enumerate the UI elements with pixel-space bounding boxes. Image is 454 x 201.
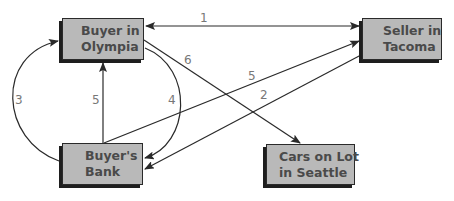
edge-3-label: 3 (15, 94, 23, 106)
edge-1-label: 1 (200, 12, 208, 24)
edge-4-label: 4 (168, 94, 176, 106)
node-cars-line2: in Seattle (279, 165, 354, 181)
edge-2-label: 2 (260, 89, 268, 101)
node-buyer-in-olympia: Buyer in Olympia (62, 18, 144, 60)
node-seller-line1: Seller in (383, 23, 441, 39)
node-cars-line1: Cars on Lot (279, 149, 354, 165)
edge-6-arrow (144, 40, 300, 143)
node-bank-line2: Bank (85, 164, 142, 180)
edge-5a-label: 5 (92, 94, 100, 106)
node-seller-in-tacoma: Seller in Tacoma (362, 18, 442, 60)
node-bank-line1: Buyer's (85, 148, 142, 164)
node-buyers-bank: Buyer's Bank (62, 143, 143, 185)
node-buyer-line2: Olympia (81, 39, 143, 55)
node-buyer-line1: Buyer in (81, 23, 143, 39)
edge-5b-label: 5 (248, 70, 256, 82)
edge-6-label: 6 (184, 54, 192, 66)
node-seller-line2: Tacoma (383, 39, 441, 55)
node-cars-on-lot-in-seattle: Cars on Lot in Seattle (266, 144, 355, 185)
